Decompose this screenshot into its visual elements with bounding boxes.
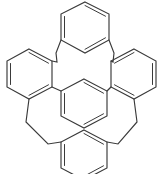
diagram-background (0, 0, 163, 174)
chemical-structure-diagram (0, 0, 163, 174)
